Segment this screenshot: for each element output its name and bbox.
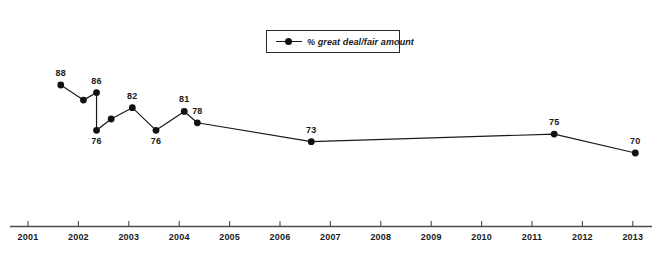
data-point[interactable] [153, 127, 160, 134]
data-point-value-label: 81 [179, 94, 189, 104]
data-point[interactable] [632, 150, 639, 157]
x-tick-label-2003: 2003 [118, 232, 139, 242]
data-point[interactable] [57, 82, 64, 89]
data-point[interactable] [93, 89, 100, 96]
data-point[interactable] [181, 108, 188, 115]
x-tick-label-2013: 2013 [622, 232, 643, 242]
data-point-value-label: 88 [56, 68, 66, 78]
legend-marker-icon [276, 37, 302, 46]
data-point[interactable] [93, 127, 100, 134]
data-point-value-label: 70 [630, 136, 640, 146]
line-chart: % great deal/fair amount 888676827681787… [0, 0, 661, 255]
x-tick-label-2005: 2005 [219, 232, 240, 242]
data-point[interactable] [129, 104, 136, 111]
data-point[interactable] [308, 138, 315, 145]
x-tick-label-2002: 2002 [68, 232, 89, 242]
x-axis [10, 221, 652, 227]
data-point[interactable] [108, 116, 115, 123]
x-tick-label-2009: 2009 [421, 232, 442, 242]
chart-legend: % great deal/fair amount [266, 30, 400, 53]
data-point-value-label: 73 [306, 125, 316, 135]
data-point[interactable] [551, 131, 558, 138]
data-point-value-label: 82 [127, 91, 137, 101]
x-tick-label-2007: 2007 [320, 232, 341, 242]
x-tick-label-2012: 2012 [572, 232, 593, 242]
x-tick-label-2001: 2001 [18, 232, 39, 242]
legend-label: % great deal/fair amount [307, 37, 414, 47]
data-point-value-label: 78 [192, 106, 202, 116]
x-tick-label-2010: 2010 [471, 232, 492, 242]
data-point-value-label: 86 [91, 76, 101, 86]
x-tick-label-2004: 2004 [169, 232, 190, 242]
x-tick-label-2006: 2006 [270, 232, 291, 242]
data-point-value-label: 75 [549, 117, 559, 127]
x-tick-label-2008: 2008 [370, 232, 391, 242]
data-point-value-label: 76 [151, 136, 161, 146]
data-point-value-label: 76 [91, 136, 101, 146]
data-point[interactable] [194, 119, 201, 126]
x-tick-label-2011: 2011 [522, 232, 542, 242]
data-point[interactable] [80, 97, 87, 104]
